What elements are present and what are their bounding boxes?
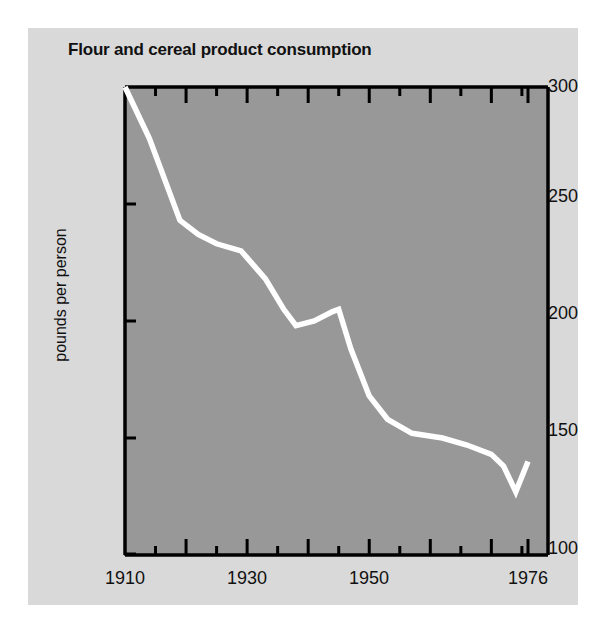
plot-background [125,87,548,555]
chart-card: Flour and cereal product consumption pou… [28,28,578,605]
plot-area [28,28,578,605]
